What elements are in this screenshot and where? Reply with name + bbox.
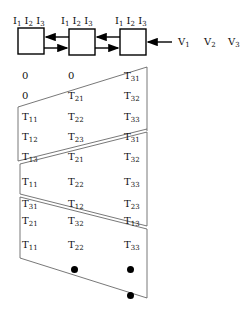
- matrix-cell: T21: [68, 91, 84, 104]
- input-v3: V3: [228, 37, 240, 50]
- matrix-cell: T23: [124, 199, 140, 212]
- matrix-cell: T13: [124, 216, 140, 229]
- matrix-cell: T31: [22, 199, 38, 212]
- matrix-cell: T21: [68, 152, 84, 165]
- matrix-cell: T12: [22, 132, 38, 145]
- block-3: [120, 29, 146, 55]
- matrix-cell: T11: [22, 177, 38, 190]
- matrix-cell: T32: [124, 152, 140, 165]
- matrix-cell: T33: [124, 177, 140, 190]
- block-2-labels: I1 I2 I3: [61, 16, 93, 29]
- input-v2: V2: [204, 37, 216, 50]
- matrix-cell: 0: [22, 91, 28, 104]
- matrix-cell: T31: [124, 132, 140, 145]
- matrix-cell: T12: [68, 199, 84, 212]
- matrix-cell: T22: [68, 112, 84, 125]
- matrix-cell: T32: [124, 91, 140, 104]
- matrix-cell: T33: [124, 112, 140, 125]
- matrix-cell: T32: [68, 216, 84, 229]
- ellipsis-dot: [127, 266, 134, 273]
- matrix-cell: T22: [68, 177, 84, 190]
- block-2: [69, 29, 95, 55]
- ellipsis-dot: [127, 292, 134, 299]
- matrix-cell: 0: [68, 71, 74, 84]
- matrix-cell: T22: [68, 240, 84, 253]
- input-v1: V1: [178, 37, 190, 50]
- block-3-labels: I1 I2 I3: [115, 16, 147, 29]
- block-1: [18, 28, 44, 54]
- matrix-cell: 0: [22, 71, 28, 84]
- matrix-cell: T33: [124, 240, 140, 253]
- matrix-cell: T31: [124, 71, 140, 84]
- matrix-cell: T13: [22, 152, 38, 165]
- matrix-cell: T11: [22, 240, 38, 253]
- block-1-labels: I1 I2 I3: [13, 16, 45, 29]
- matrix-cell: T21: [22, 216, 38, 229]
- ellipsis-dot: [71, 266, 78, 273]
- matrix-cell: T23: [68, 132, 84, 145]
- matrix-cell: T11: [22, 112, 38, 125]
